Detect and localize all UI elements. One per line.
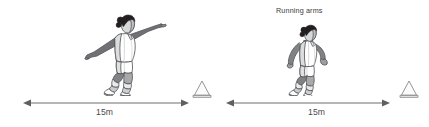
athlete-running-arms-figure xyxy=(277,22,339,96)
athlete-wide-arms-figure xyxy=(84,8,168,96)
caption-running-arms: Running arms xyxy=(276,7,323,14)
panel-left: 15m xyxy=(0,0,215,127)
diagram-canvas: 15m Running arms xyxy=(0,0,429,127)
measure-label-left: 15m xyxy=(96,108,113,117)
measure-label-right: 15m xyxy=(308,108,325,117)
panel-right: Running arms xyxy=(215,0,429,127)
